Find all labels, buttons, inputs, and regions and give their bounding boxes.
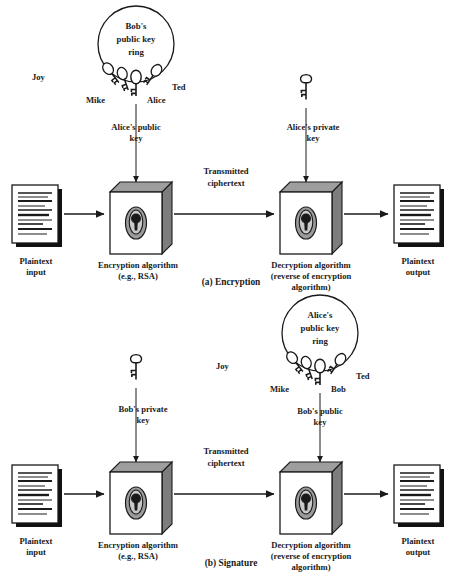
label-bob-private-key-line2: key (137, 415, 151, 425)
label-encryption-algorithm-line2: (e.g., RSA) (118, 271, 158, 281)
public-key-cryptography-figure: Bob's public key ring Joy Mike Alice Ted (0, 0, 462, 583)
key-ring-label-line2: public key (117, 34, 156, 44)
label-plaintext-output-line1: Plaintext (402, 256, 435, 266)
label-decryption-algorithm-b-line1: Decryption algorithm (271, 540, 351, 550)
ring-key-b-bob (315, 359, 325, 385)
key-ring-label-b-line2: public key (301, 323, 340, 333)
ring-key-label-mike: Mike (86, 95, 105, 105)
plaintext-output-document-b (394, 465, 444, 527)
label-alice-private-key-line2: key (307, 133, 321, 143)
label-ciphertext-line2: ciphertext (207, 178, 244, 188)
ring-key-alice (131, 70, 141, 96)
label-bob-private-key-line1: Bob's private (119, 404, 168, 414)
label-decryption-algorithm-b-line2: (reverse of encryption (271, 551, 352, 561)
label-encryption-algorithm-b-line2: (e.g., RSA) (118, 551, 158, 561)
ring-key-label-joy: Joy (32, 72, 46, 82)
encryption-algorithm-box (110, 182, 172, 254)
panel-caption-signature: (b) Signature (205, 558, 258, 569)
label-bob-public-key-line2: key (314, 417, 328, 427)
figure-canvas: Bob's public key ring Joy Mike Alice Ted (0, 0, 462, 583)
label-alice-private-key-line1: Alice's private (287, 122, 340, 132)
private-key-icon-bob (131, 355, 142, 380)
label-plaintext-output-b-line2: output (406, 547, 430, 557)
label-plaintext-input-line1: Plaintext (20, 256, 53, 266)
label-plaintext-output-line2: output (406, 267, 430, 277)
panel-encryption: Bob's public key ring Joy Mike Alice Ted (12, 6, 444, 292)
label-decryption-algorithm-b-line3: algorithm) (291, 562, 330, 572)
label-bob-public-key-line1: Bob's public (297, 406, 343, 416)
label-decryption-algorithm-line3: algorithm) (291, 282, 330, 292)
plaintext-input-document (12, 185, 62, 247)
label-alice-public-key-line2: key (130, 133, 144, 143)
ring-key-label-alice: Alice (147, 95, 166, 105)
panel-caption-encryption: (a) Encryption (202, 277, 261, 288)
label-plaintext-input-line2: input (26, 267, 46, 277)
panel-signature: Alice's public key ring Joy Mike Bob Ted (12, 295, 444, 572)
key-ring-alice: Alice's public key ring Joy Mike Bob Ted (216, 295, 370, 394)
key-ring-label-b-line3: ring (312, 336, 328, 346)
decryption-algorithm-box-b (280, 462, 342, 534)
label-ciphertext-b-line2: ciphertext (207, 458, 244, 468)
label-plaintext-output-b-line1: Plaintext (402, 536, 435, 546)
label-decryption-algorithm-line1: Decryption algorithm (271, 260, 351, 270)
ring-key-label-b-bob: Bob (331, 384, 346, 394)
label-transmitted-b-line1: Transmitted (203, 446, 248, 456)
plaintext-input-document-b (12, 465, 62, 527)
label-alice-public-key-line1: Alice's public (111, 122, 161, 132)
key-ring-bob: Bob's public key ring Joy Mike Alice Ted (32, 6, 186, 105)
decryption-algorithm-box (280, 182, 342, 254)
label-decryption-algorithm-line2: (reverse of encryption (271, 271, 352, 281)
label-plaintext-input-b-line2: input (26, 547, 46, 557)
plaintext-output-document (394, 185, 444, 247)
key-ring-label-line1: Bob's (125, 21, 147, 31)
ring-key-label-ted: Ted (172, 82, 186, 92)
label-transmitted-line1: Transmitted (203, 166, 248, 176)
label-plaintext-input-b-line1: Plaintext (20, 536, 53, 546)
ring-key-label-b-joy: Joy (216, 361, 230, 371)
key-ring-label-line3: ring (128, 47, 144, 57)
private-key-icon-alice (301, 75, 312, 100)
label-encryption-algorithm-line1: Encryption algorithm (98, 260, 179, 270)
ring-key-label-b-mike: Mike (270, 384, 289, 394)
encryption-algorithm-box-b (110, 462, 172, 534)
label-encryption-algorithm-b-line1: Encryption algorithm (98, 540, 179, 550)
ring-key-label-b-ted: Ted (356, 371, 370, 381)
key-ring-label-b-line1: Alice's (308, 310, 333, 320)
